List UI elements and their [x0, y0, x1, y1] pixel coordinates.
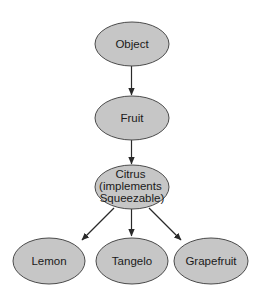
node-citrus-label-line-1: Citrus [115, 168, 145, 180]
node-object: Object [95, 22, 169, 66]
node-lemon: Lemon [13, 238, 85, 284]
node-object-label: Object [115, 38, 149, 50]
svg-text:Grapefruit: Grapefruit [185, 255, 237, 267]
svg-text:Fruit: Fruit [121, 112, 145, 124]
node-grapefruit-label: Grapefruit [185, 255, 237, 267]
node-tangelo: Tangelo [96, 238, 168, 284]
edges [82, 66, 181, 240]
node-fruit: Fruit [95, 96, 169, 140]
node-lemon-label: Lemon [31, 255, 66, 267]
edge-citrus-to-grapefruit [149, 208, 181, 240]
node-tangelo-label: Tangelo [112, 255, 152, 267]
node-citrus-label-line-3: Squeezable) [100, 192, 165, 204]
node-citrus-label-line-2: (implements [99, 180, 162, 192]
svg-text:Lemon: Lemon [31, 255, 66, 267]
svg-text:Object: Object [115, 38, 149, 50]
class-hierarchy-diagram: Object Fruit Citrus (implements Squeezab… [0, 0, 262, 301]
svg-text:Tangelo: Tangelo [112, 255, 152, 267]
edge-citrus-to-lemon [82, 208, 114, 240]
node-citrus: Citrus (implements Squeezable) [95, 165, 169, 209]
node-grapefruit: Grapefruit [174, 238, 248, 284]
node-fruit-label: Fruit [121, 112, 145, 124]
